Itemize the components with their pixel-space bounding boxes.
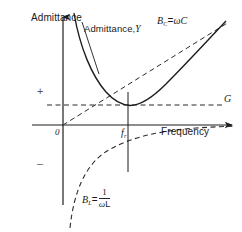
bl-fraction: 1 ωL — [99, 188, 111, 209]
capacitive-susceptance-line — [63, 22, 229, 125]
y-axis-label: Admittance — [31, 13, 82, 23]
inductive-susceptance-curve — [70, 126, 234, 228]
admittance-curve-label-text: Admittance, — [84, 23, 135, 34]
inductive-susceptance-label: BL= 1 ωL — [82, 188, 110, 209]
admittance-frequency-diagram: Admittance Admittance,Y BC=ωC G Frequenc… — [0, 0, 242, 232]
bl-inductance: L — [105, 199, 110, 209]
bl-numerator: 1 — [99, 188, 111, 199]
origin-label: 0 — [55, 128, 60, 137]
fr-subscript: r — [124, 132, 127, 139]
x-axis-label: Frequency — [161, 127, 209, 137]
positive-axis-mark: + — [37, 86, 44, 97]
admittance-curve-label: Admittance,Y — [84, 24, 141, 35]
bl-equals: = — [92, 194, 98, 205]
conductance-label: G — [224, 94, 231, 104]
bc-expression: ωC — [173, 15, 187, 26]
negative-axis-mark: – — [37, 158, 43, 169]
admittance-symbol: Y — [135, 24, 140, 34]
resonant-frequency-label: fr — [121, 128, 126, 139]
capacitive-susceptance-label: BC=ωC — [157, 16, 187, 27]
bl-denominator: ωL — [99, 199, 111, 210]
diagram-canvas — [0, 0, 242, 232]
